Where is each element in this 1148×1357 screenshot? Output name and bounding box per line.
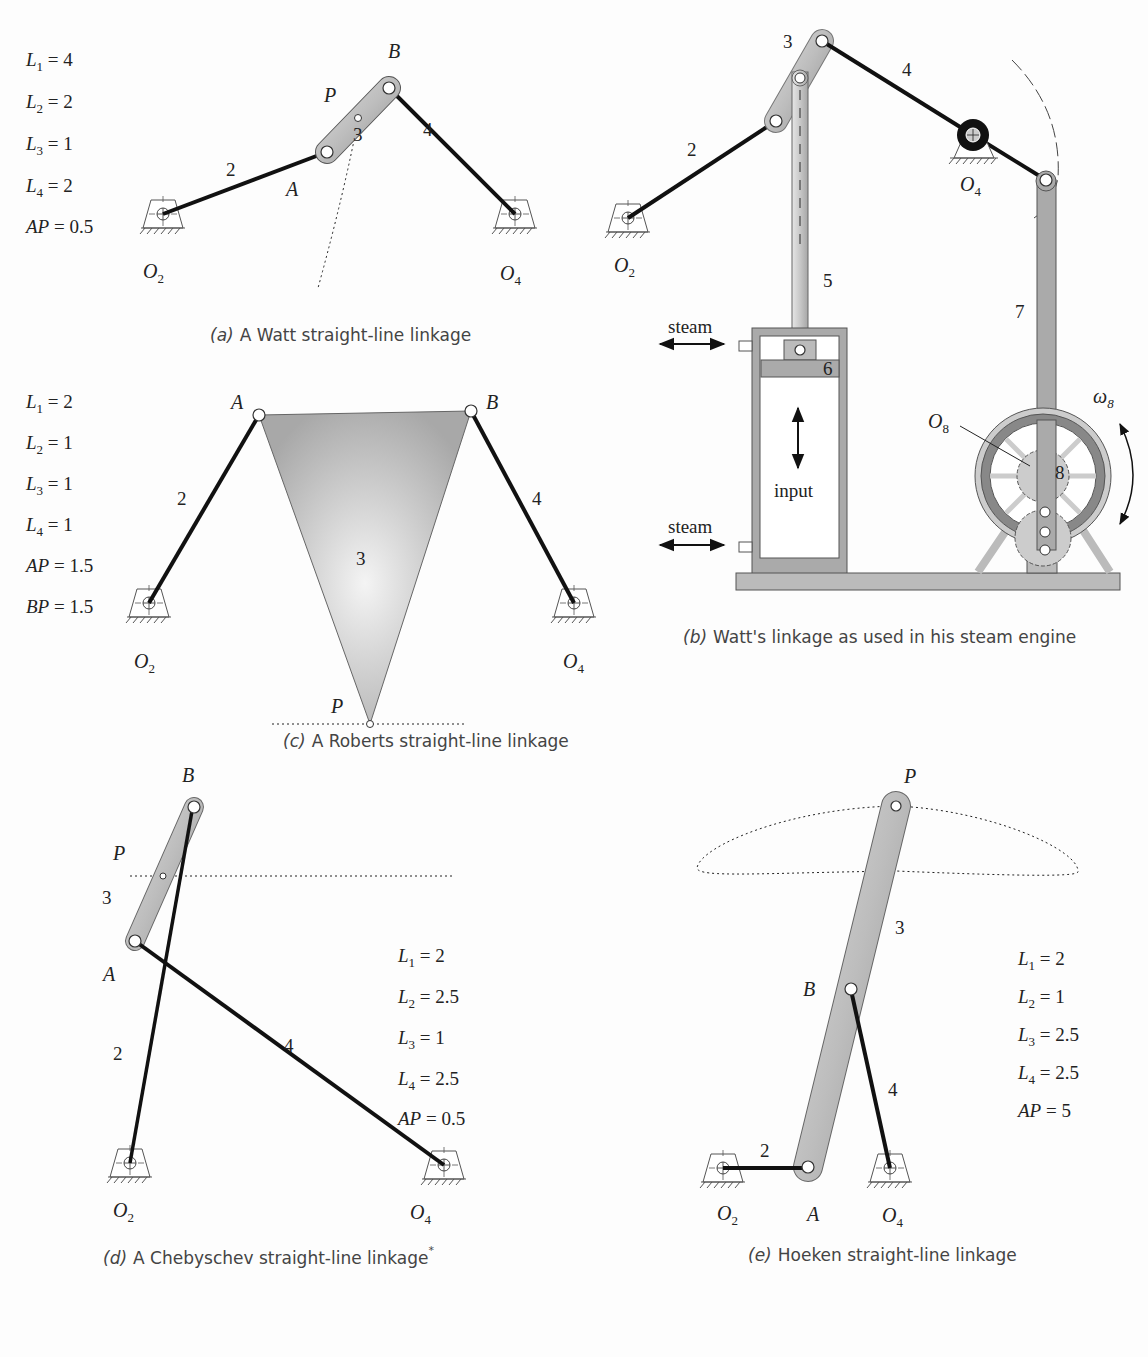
svg-text:AP = 5: AP = 5: [1016, 1100, 1071, 1121]
link-label-8: 8: [1055, 462, 1065, 483]
link-label-4: 4: [423, 119, 433, 140]
joint-a: [802, 1161, 814, 1173]
svg-text:AP = 1.5: AP = 1.5: [24, 555, 93, 576]
link-label-2: 2: [687, 139, 697, 160]
svg-text:L4 = 2.5: L4 = 2.5: [397, 1068, 459, 1093]
svg-text:L1 = 4: L1 = 4: [25, 49, 73, 74]
joint-crosshead: [795, 345, 805, 355]
label-o4: O4: [500, 262, 521, 288]
link-label-2: 2: [226, 159, 236, 180]
link-label-5: 5: [823, 270, 833, 291]
link-4: [471, 411, 574, 603]
omega8-arrow: [1120, 424, 1133, 524]
label-o2: O2: [717, 1202, 738, 1228]
svg-text:L3 = 2.5: L3 = 2.5: [1017, 1024, 1079, 1049]
label-o2: O2: [143, 260, 164, 286]
coupler-point-p: [160, 873, 166, 879]
link-4: [822, 41, 973, 135]
label-omega8: ω8: [1093, 385, 1114, 411]
link-label-3: 3: [102, 887, 112, 908]
label-o4: O4: [410, 1201, 431, 1227]
link-2: [163, 152, 327, 214]
link-label-2: 2: [113, 1043, 123, 1064]
panel-c-roberts: L1 = 2 L2 = 1 L3 = 1 L4 = 1 AP = 1.5 BP …: [24, 391, 596, 751]
link-label-3: 3: [356, 548, 366, 569]
link-label-3: 3: [895, 917, 905, 938]
svg-text:L2 = 1: L2 = 1: [1017, 986, 1065, 1011]
label-a: A: [229, 391, 244, 413]
joint-2-3: [770, 115, 782, 127]
link-2: [628, 121, 776, 218]
svg-text:L1 = 2: L1 = 2: [1017, 948, 1065, 973]
label-p: P: [112, 842, 125, 864]
link-4: [851, 990, 890, 1168]
label-o8: O8: [928, 410, 949, 436]
ground-pivot-o4: [867, 1150, 912, 1188]
steam-label-top: steam: [668, 316, 713, 337]
panel-b-steam-engine: 6 input steam steam 8 O8 ω8 3: [605, 31, 1133, 647]
panel-d-chebyschev: B P A 3 2 4 L1 = 2 L2 = 2.5 L3 = 1 L4 = …: [101, 764, 466, 1268]
ground-pivot-o4: [551, 585, 596, 623]
panel-d-params: L1 = 2 L2 = 2.5 L3 = 1 L4 = 2.5 AP = 0.5: [396, 945, 465, 1129]
link-label-4: 4: [888, 1079, 898, 1100]
svg-text:L4 = 1: L4 = 1: [25, 514, 73, 539]
svg-text:L2 = 2.5: L2 = 2.5: [397, 986, 459, 1011]
panel-e-params: L1 = 2 L2 = 1 L3 = 2.5 L4 = 2.5 AP = 5: [1016, 948, 1079, 1121]
link-label-3: 3: [353, 124, 363, 145]
ground-pivot-o4: [492, 196, 537, 234]
joint-b: [188, 801, 200, 813]
label-b: B: [388, 40, 400, 62]
svg-text:L4 = 2.5: L4 = 2.5: [1017, 1062, 1079, 1087]
label-b: B: [182, 764, 194, 786]
ground-pivot-o2: [126, 585, 171, 623]
caption-b: (b)Watt's linkage as used in his steam e…: [683, 627, 1076, 647]
joint-b: [383, 82, 395, 94]
svg-text:AP = 0.5: AP = 0.5: [24, 216, 93, 237]
ground-pivot-o2: [140, 196, 185, 234]
coupler-point-p: [891, 801, 901, 811]
caption-c: (c)A Roberts straight-line linkage: [283, 731, 569, 751]
panel-c-params: L1 = 2 L2 = 1 L3 = 1 L4 = 1 AP = 1.5 BP …: [24, 391, 93, 617]
joint-a: [321, 146, 333, 158]
joint-b: [465, 405, 477, 417]
engine-base: [736, 573, 1120, 590]
coupler-point-p: [367, 721, 374, 728]
panel-a-params: L1 = 4 L2 = 2 L3 = 1 L4 = 2 AP = 0.5: [24, 49, 93, 237]
link-label-7: 7: [1015, 301, 1025, 322]
label-o4: O4: [882, 1204, 903, 1230]
linkage-figure: L1 = 4 L2 = 2 L3 = 1 L4 = 2 AP = 0.5 B P…: [0, 0, 1148, 1357]
joint-rod-top: [795, 73, 805, 83]
steam-label-bottom: steam: [668, 516, 713, 537]
link-2: [149, 415, 259, 603]
svg-text:BP = 1.5: BP = 1.5: [26, 596, 93, 617]
label-p: P: [323, 84, 336, 106]
caption-e: (e)Hoeken straight-line linkage: [748, 1245, 1017, 1265]
svg-text:L3 = 1: L3 = 1: [397, 1027, 445, 1052]
joint-4-7: [1040, 174, 1052, 186]
svg-text:L2 = 1: L2 = 1: [25, 432, 73, 457]
joint-3-4: [816, 35, 828, 47]
label-p: P: [330, 695, 343, 717]
label-o2: O2: [614, 254, 635, 280]
svg-text:L4 = 2: L4 = 2: [25, 175, 73, 200]
gear-joint-3: [1040, 545, 1050, 555]
link-label-6: 6: [823, 358, 833, 379]
figure-canvas: L1 = 4 L2 = 2 L3 = 1 L4 = 2 AP = 0.5 B P…: [0, 0, 1148, 1357]
svg-text:L2 = 2: L2 = 2: [25, 91, 73, 116]
link-label-2: 2: [177, 488, 187, 509]
link-4: [389, 88, 515, 214]
label-o4: O4: [960, 173, 981, 199]
joint-b: [845, 983, 857, 995]
gear-joint-1: [1040, 507, 1050, 517]
panel-a-watt: L1 = 4 L2 = 2 L3 = 1 L4 = 2 AP = 0.5 B P…: [24, 40, 537, 345]
link-label-4: 4: [902, 59, 912, 80]
label-a: A: [805, 1203, 820, 1225]
coupler-point-p: [355, 115, 362, 122]
label-o2: O2: [134, 650, 155, 676]
joint-a: [253, 409, 265, 421]
gear-joint-2: [1040, 527, 1050, 537]
svg-text:AP = 0.5: AP = 0.5: [396, 1108, 465, 1129]
label-o2: O2: [113, 1199, 134, 1225]
svg-text:L1 = 2: L1 = 2: [25, 391, 73, 416]
svg-text:L1 = 2: L1 = 2: [397, 945, 445, 970]
